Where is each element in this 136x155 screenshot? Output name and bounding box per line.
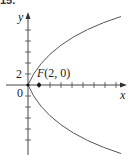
focus-coords: (2, 0) [44,66,70,80]
y-axis-arrow-icon [26,12,31,19]
y-axis-label: y [18,11,23,23]
origin-point [26,83,29,86]
y-tick-label-2: 2 [16,68,22,80]
x-axis-label: x [120,89,125,101]
origin-label: 0 [17,87,23,99]
focus-point [37,83,41,87]
x-axis-arrow-icon [120,83,127,88]
focus-label: F(2, 0) [37,67,70,79]
